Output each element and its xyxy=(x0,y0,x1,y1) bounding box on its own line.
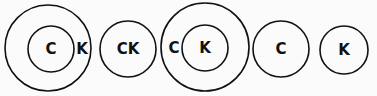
group-5: K xyxy=(320,26,368,74)
label-c: C xyxy=(45,40,56,58)
group-2: CK xyxy=(100,21,156,77)
group-1: C K xyxy=(5,5,91,91)
label-ck: CK xyxy=(117,40,141,58)
group-4: C xyxy=(253,21,309,77)
label-c: C xyxy=(275,40,286,58)
group-3: C K xyxy=(161,3,249,91)
label-k: K xyxy=(338,41,351,59)
venn-diagram: C K CK C K C K xyxy=(0,0,377,96)
label-k: K xyxy=(76,40,89,58)
label-c: C xyxy=(168,39,179,57)
label-k: K xyxy=(199,39,212,57)
